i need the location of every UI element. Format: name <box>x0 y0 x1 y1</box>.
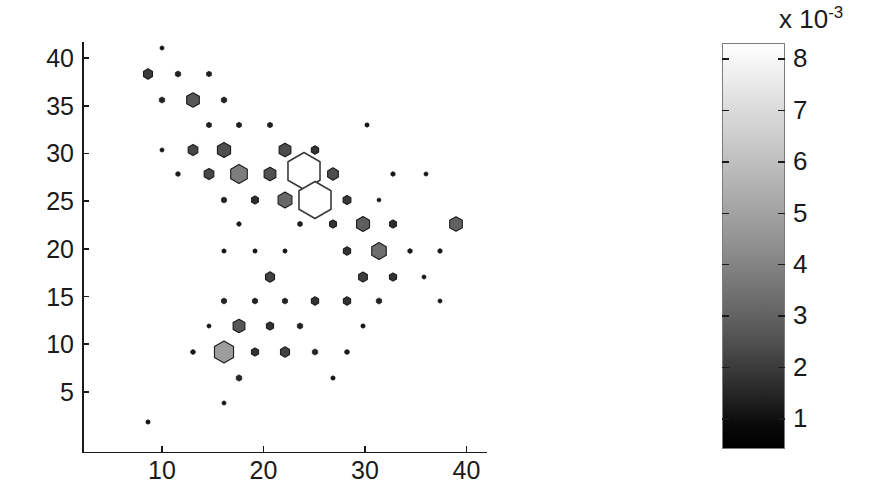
hexbin-density-figure: 510152025303540 10203040 x 10-3 87654321 <box>0 0 895 502</box>
data-marker-hexagon <box>419 271 429 281</box>
colorbar-tick-label: 6 <box>793 148 807 174</box>
data-marker-hexagon <box>183 90 204 111</box>
x-tick-mark <box>263 446 265 452</box>
data-marker-hexagon <box>218 94 230 106</box>
data-marker-hexagon <box>446 214 467 235</box>
data-marker-hexagon <box>404 245 415 256</box>
data-marker-hexagon <box>362 120 373 131</box>
data-marker-hexagon <box>200 166 217 183</box>
data-marker-hexagon <box>233 371 245 383</box>
data-marker-hexagon <box>388 169 399 180</box>
y-tick-mark <box>83 296 89 298</box>
data-marker-hexagon <box>309 346 321 358</box>
data-marker-hexagon <box>435 245 446 256</box>
data-marker-hexagon <box>262 319 276 333</box>
x-tick-label: 10 <box>148 458 176 483</box>
y-tick-label: 40 <box>46 46 74 71</box>
data-marker-hexagon <box>368 239 391 262</box>
y-tick-mark <box>83 57 89 59</box>
colorbar-tick-label: 8 <box>793 45 807 71</box>
y-tick-mark <box>83 391 89 393</box>
colorbar-tick-label: 2 <box>793 354 807 380</box>
y-tick-label: 10 <box>46 332 74 357</box>
data-marker-hexagon <box>219 398 229 408</box>
data-marker-hexagon <box>279 295 291 307</box>
colorbar-tick-label: 1 <box>793 405 807 431</box>
data-marker-hexagon <box>264 119 276 131</box>
x-tick-mark <box>161 446 163 452</box>
data-marker-hexagon <box>233 119 245 131</box>
colorbar-gradient <box>723 44 784 448</box>
data-marker-hexagon <box>327 372 338 383</box>
data-marker-hexagon <box>374 195 384 205</box>
data-marker-hexagon <box>203 119 215 131</box>
colorbar-box[interactable] <box>722 43 785 449</box>
data-marker-hexagon <box>156 94 168 106</box>
data-marker-hexagon <box>234 219 245 230</box>
data-marker-hexagon-outlined <box>294 179 337 222</box>
y-tick-label: 15 <box>46 284 74 309</box>
y-tick-mark <box>83 248 89 250</box>
colorbar-tick-label: 7 <box>793 97 807 123</box>
data-marker-hexagon <box>261 268 277 284</box>
data-marker-hexagon <box>277 344 293 360</box>
data-marker-hexagon <box>157 42 167 52</box>
y-tick-mark <box>83 105 89 107</box>
data-marker-hexagon <box>248 193 262 207</box>
data-marker-hexagon <box>352 214 373 235</box>
data-marker-hexagon <box>421 169 431 179</box>
y-tick-mark <box>83 200 89 202</box>
data-marker-hexagon <box>435 296 445 306</box>
data-marker-hexagon <box>142 416 153 427</box>
data-marker-hexagon <box>340 294 354 308</box>
data-marker-hexagon <box>280 245 291 256</box>
x-tick-label: 20 <box>250 458 278 483</box>
colorbar-tick-label: 4 <box>793 251 807 277</box>
data-marker-hexagon <box>373 295 385 307</box>
data-marker-hexagon <box>249 295 261 307</box>
data-marker-hexagon <box>358 321 369 332</box>
data-marker-hexagon <box>173 169 184 180</box>
data-marker-hexagon <box>210 338 238 366</box>
data-marker-hexagon <box>140 66 156 82</box>
data-marker-hexagon <box>185 141 202 158</box>
data-marker-hexagon <box>386 269 400 283</box>
colorbar-exponent-superscript: -3 <box>828 3 843 22</box>
colorbar-tick-label: 5 <box>793 200 807 226</box>
data-marker-hexagon <box>218 194 230 206</box>
x-tick-label: 40 <box>453 458 481 483</box>
y-tick-label: 30 <box>46 141 74 166</box>
x-tick-mark <box>466 446 468 452</box>
data-marker-hexagon <box>203 321 213 331</box>
y-tick-label: 5 <box>60 380 74 405</box>
data-marker-hexagon <box>355 269 371 285</box>
x-tick-mark <box>364 446 366 452</box>
data-marker-hexagon <box>339 193 354 208</box>
data-marker-hexagon <box>294 320 306 332</box>
data-marker-hexagon <box>203 68 215 80</box>
y-tick-mark <box>83 343 89 345</box>
data-marker-hexagon <box>213 139 234 160</box>
colorbar-tick-label: 3 <box>793 302 807 328</box>
y-tick-label: 20 <box>46 236 74 261</box>
plot-area: 510152025303540 10203040 <box>0 0 540 502</box>
data-marker-hexagon <box>260 165 280 185</box>
data-marker-hexagon <box>340 244 354 258</box>
data-marker-hexagon <box>157 144 167 154</box>
y-tick-mark <box>83 153 89 155</box>
data-marker-hexagon <box>172 68 184 80</box>
data-marker-hexagon <box>386 217 400 231</box>
data-marker-hexagon <box>341 346 352 357</box>
data-marker-hexagon <box>248 345 262 359</box>
data-marker-hexagon <box>219 245 230 256</box>
data-marker-hexagon <box>188 346 199 357</box>
x-axis-line <box>82 452 487 454</box>
x-tick-label: 30 <box>351 458 379 483</box>
data-marker-hexagon <box>227 162 252 187</box>
data-marker-hexagon <box>308 294 322 308</box>
y-tick-label: 25 <box>46 189 74 214</box>
data-marker-hexagon <box>229 316 249 336</box>
data-marker-hexagon <box>218 295 230 307</box>
colorbar-exponent-label: x 10-3 <box>779 6 843 32</box>
y-tick-label: 35 <box>46 93 74 118</box>
